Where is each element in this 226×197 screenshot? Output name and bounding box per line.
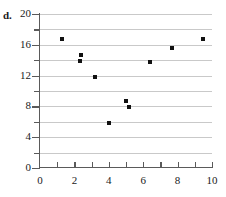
x-axis-tick xyxy=(57,162,58,168)
gridline xyxy=(40,14,212,15)
y-axis-tick-label: 8 xyxy=(1,99,31,111)
y-axis-tick-label: 20 xyxy=(1,7,31,19)
y-axis-minor-tick xyxy=(34,60,40,61)
y-axis-minor-tick xyxy=(34,153,40,154)
data-point xyxy=(170,46,174,50)
x-axis-tick xyxy=(126,162,127,168)
gridline xyxy=(40,122,212,123)
y-axis-tick-label: 4 xyxy=(1,130,31,142)
x-axis-tick-label: 2 xyxy=(62,174,86,186)
y-axis-tick-label: 16 xyxy=(1,38,31,50)
x-axis-tick xyxy=(178,162,179,168)
gridline xyxy=(40,76,212,77)
data-point xyxy=(124,99,128,103)
data-point xyxy=(107,121,111,125)
scatter-plot-figure: d. 048121620 0246810 xyxy=(0,0,226,197)
y-axis-tick-label: 0 xyxy=(1,161,31,173)
data-point xyxy=(79,53,83,57)
y-axis-labels: 048121620 xyxy=(0,0,31,197)
x-axis-tick xyxy=(160,162,161,168)
y-axis-major-tick xyxy=(32,45,40,46)
y-axis-major-tick xyxy=(32,168,40,169)
y-axis-minor-tick xyxy=(34,122,40,123)
gridline xyxy=(40,106,212,107)
data-point xyxy=(127,105,131,109)
gridline xyxy=(40,45,212,46)
x-axis-tick-label: 8 xyxy=(166,174,190,186)
gridline xyxy=(40,29,212,30)
x-axis-tick xyxy=(143,162,144,168)
x-axis-tick xyxy=(92,162,93,168)
x-axis-tick xyxy=(195,162,196,168)
x-axis-tick xyxy=(74,162,75,168)
x-axis-tick-label: 4 xyxy=(97,174,121,186)
gridline xyxy=(40,137,212,138)
data-point xyxy=(93,75,97,79)
x-axis-tick-label: 10 xyxy=(200,174,224,186)
plot-area xyxy=(40,14,212,168)
data-point xyxy=(78,59,82,63)
x-axis-tick xyxy=(109,162,110,168)
y-axis-major-tick xyxy=(32,14,40,15)
y-axis-major-tick xyxy=(32,137,40,138)
x-axis-tick-label: 6 xyxy=(131,174,155,186)
y-axis-minor-tick xyxy=(34,29,40,30)
gridline xyxy=(40,153,212,154)
data-point xyxy=(201,37,205,41)
y-axis-minor-tick xyxy=(34,91,40,92)
data-point xyxy=(148,60,152,64)
gridline xyxy=(40,91,212,92)
y-axis-major-tick xyxy=(32,106,40,107)
x-axis-tick xyxy=(212,162,213,168)
y-axis-tick-label: 12 xyxy=(1,69,31,81)
gridline xyxy=(40,60,212,61)
x-axis-tick-label: 0 xyxy=(28,174,52,186)
y-axis-major-tick xyxy=(32,76,40,77)
data-point xyxy=(60,37,64,41)
